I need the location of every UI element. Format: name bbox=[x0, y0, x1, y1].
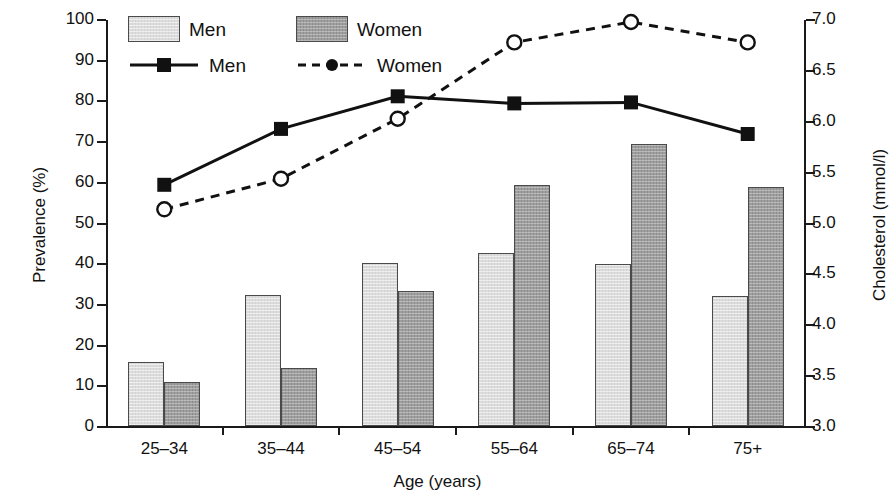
y-left-tick-label: 90 bbox=[48, 50, 94, 70]
marker-men-25–34 bbox=[157, 178, 171, 192]
y-left-tick-label: 80 bbox=[48, 90, 94, 110]
y-left-tick-mark bbox=[97, 426, 106, 428]
legend-item-bar-women: Women bbox=[296, 14, 422, 44]
legend-item-line-men: Men bbox=[128, 50, 246, 80]
y-right-tick-label: 5.5 bbox=[812, 162, 872, 182]
marker-men-75+ bbox=[741, 127, 755, 141]
y-left-tick-mark bbox=[97, 385, 106, 387]
legend-line-solid-square-icon bbox=[128, 54, 200, 76]
x-axis-tick-label: 45–54 bbox=[338, 439, 458, 459]
marker-men-35–44 bbox=[274, 122, 288, 136]
y-right-tick-label: 4.5 bbox=[812, 263, 872, 283]
y-left-tick-mark bbox=[97, 182, 106, 184]
y-right-tick-label: 7.0 bbox=[812, 9, 872, 29]
legend-item-line-women: Women bbox=[296, 50, 442, 80]
marker-men-65–74 bbox=[624, 95, 638, 109]
y-left-tick-mark bbox=[97, 304, 106, 306]
y-left-tick-mark bbox=[97, 223, 106, 225]
y-axis-right-title: Cholesterol (mmol/l) bbox=[870, 110, 890, 340]
legend-label-men-line: Men bbox=[209, 56, 246, 75]
x-axis-tick-label: 25–34 bbox=[104, 439, 224, 459]
marker-women-65–74 bbox=[624, 15, 638, 29]
x-axis-tick-label: 55–64 bbox=[454, 439, 574, 459]
y-left-tick-label: 100 bbox=[48, 9, 94, 29]
y-left-tick-label: 30 bbox=[48, 294, 94, 314]
y-left-tick-label: 60 bbox=[48, 172, 94, 192]
y-left-tick-mark bbox=[97, 19, 106, 21]
y-right-tick-label: 5.0 bbox=[812, 213, 872, 233]
y-left-tick-label: 10 bbox=[48, 375, 94, 395]
y-left-tick-mark bbox=[97, 141, 106, 143]
y-right-tick-label: 6.5 bbox=[812, 60, 872, 80]
marker-women-25–34 bbox=[157, 202, 171, 216]
y-axis-left-title: Prevalence (%) bbox=[30, 125, 50, 325]
y-left-tick-mark bbox=[97, 263, 106, 265]
marker-women-45–54 bbox=[391, 112, 405, 126]
legend-row-lines: Men Women bbox=[128, 50, 548, 80]
y-right-tick-label: 4.0 bbox=[812, 314, 872, 334]
y-left-tick-label: 50 bbox=[48, 213, 94, 233]
legend-label-women-line: Women bbox=[377, 56, 442, 75]
marker-women-35–44 bbox=[274, 172, 288, 186]
x-axis-tick-label: 35–44 bbox=[221, 439, 341, 459]
y-left-tick-mark bbox=[97, 100, 106, 102]
y-left-tick-mark bbox=[97, 345, 106, 347]
y-left-tick-label: 40 bbox=[48, 253, 94, 273]
y-left-tick-label: 0 bbox=[48, 416, 94, 436]
legend-swatch-women-bar bbox=[296, 16, 348, 42]
y-left-tick-label: 70 bbox=[48, 131, 94, 151]
y-right-tick-label: 3.0 bbox=[812, 416, 872, 436]
legend-label-women-bar: Women bbox=[357, 20, 422, 39]
x-axis-tick-label: 65–74 bbox=[571, 439, 691, 459]
y-right-tick-label: 6.0 bbox=[812, 111, 872, 131]
y-right-tick-label: 3.5 bbox=[812, 365, 872, 385]
line-men bbox=[164, 96, 747, 185]
y-left-tick-label: 20 bbox=[48, 335, 94, 355]
marker-men-55–64 bbox=[507, 96, 521, 110]
marker-women-75+ bbox=[741, 35, 755, 49]
legend-swatch-men-bar bbox=[128, 16, 180, 42]
marker-men-45–54 bbox=[391, 89, 405, 103]
legend-row-bars: Men Women bbox=[128, 14, 548, 44]
legend-item-bar-men: Men bbox=[128, 14, 226, 44]
chart-legend: Men Women Men Women bbox=[128, 14, 548, 84]
legend-line-dashed-circle-icon bbox=[296, 54, 368, 76]
x-axis-title: Age (years) bbox=[0, 472, 875, 492]
x-axis-tick-label: 75+ bbox=[688, 439, 808, 459]
y-left-tick-mark bbox=[97, 60, 106, 62]
legend-label-men-bar: Men bbox=[189, 20, 226, 39]
